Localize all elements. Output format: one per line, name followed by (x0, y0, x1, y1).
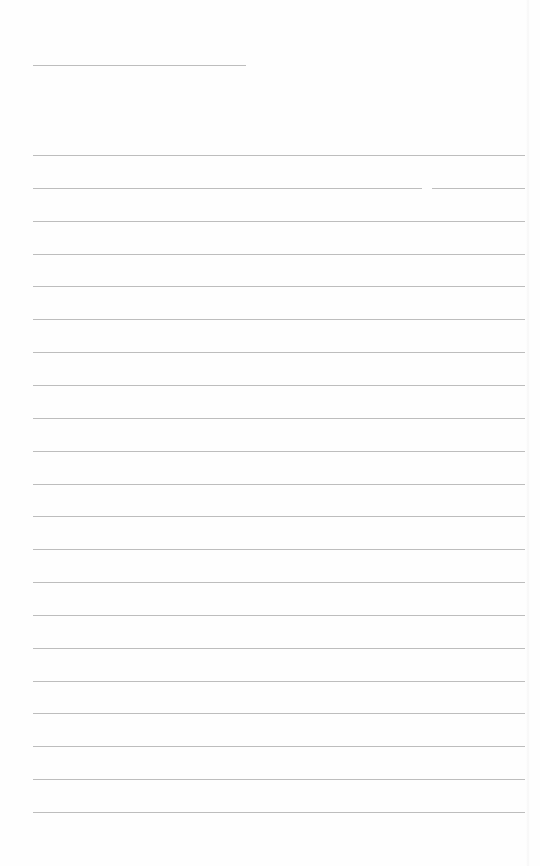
ruled-line (33, 254, 525, 255)
ruled-line (33, 418, 525, 419)
ruled-line (33, 582, 525, 583)
ruled-line (33, 549, 525, 550)
ruled-line (33, 484, 525, 485)
ruled-line (33, 188, 422, 189)
ruled-line (33, 451, 525, 452)
ruled-line (33, 713, 525, 714)
ruled-line (33, 385, 525, 386)
ruled-line (33, 779, 525, 780)
ruled-line (33, 221, 525, 222)
ruled-line (33, 516, 525, 517)
ruled-line (33, 615, 525, 616)
ruled-line (33, 319, 525, 320)
ruled-line (33, 286, 525, 287)
lined-paper-page (0, 0, 540, 866)
ruled-line (33, 746, 525, 747)
ruled-line (33, 352, 525, 353)
ruled-line (33, 812, 525, 813)
ruled-line (432, 188, 525, 189)
ruled-line (33, 648, 525, 649)
title-line (33, 65, 246, 66)
ruled-line (33, 155, 525, 156)
ruled-line (33, 681, 525, 682)
page-edge-shadow (526, 0, 530, 866)
